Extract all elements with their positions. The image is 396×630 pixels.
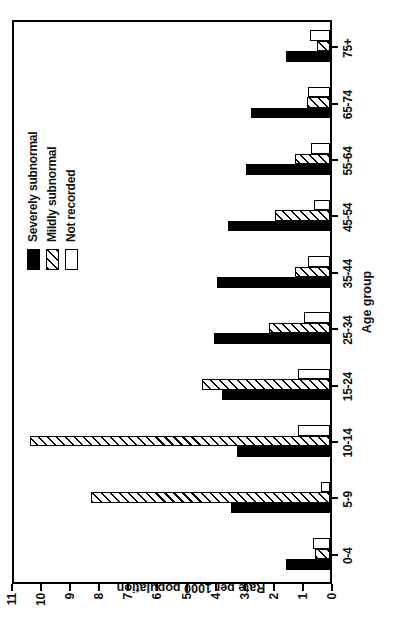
x-axis-tick-label: 25-34 — [341, 316, 355, 345]
legend-item: Not recorded — [64, 132, 78, 270]
x-axis-tick-label: 75+ — [341, 38, 355, 57]
bar-75plus-mildly-subnormal — [317, 41, 330, 52]
legend-item-label: Mildly subnormal — [45, 147, 59, 242]
x-axis-tick-label: 55-64 — [341, 146, 355, 175]
value-axis: Rate per 1000 population01234567891011 — [12, 584, 332, 630]
rotated-figure-wrapper: Rate per 1000 population01234567891011 A… — [0, 0, 396, 630]
solid-black-swatch — [27, 249, 40, 270]
y-axis-tick-label: 9 — [63, 593, 77, 599]
bar-65-74-not-recorded — [308, 87, 330, 98]
y-axis-tick-label: 10 — [34, 593, 48, 606]
x-axis-tick — [332, 385, 338, 387]
x-axis-tick — [332, 103, 338, 105]
bar-15-24-mildly-subnormal — [202, 379, 330, 390]
y-axis-tick-label: 6 — [150, 593, 164, 599]
bar-15-24-not-recorded — [298, 369, 330, 380]
bar-65-74-severely-subnormal — [251, 108, 330, 119]
y-axis-tick — [331, 584, 333, 591]
y-axis-tick-label: 2 — [267, 593, 281, 599]
y-axis-tick-label: 4 — [209, 593, 223, 599]
legend-item-label: Severely subnormal — [26, 132, 40, 242]
bar-0-4-mildly-subnormal — [315, 549, 330, 560]
y-axis-tick — [127, 584, 129, 591]
x-axis-tick — [332, 441, 338, 443]
y-axis-tick-label: 8 — [92, 593, 106, 599]
x-axis-tick — [332, 215, 338, 217]
y-axis-tick — [11, 584, 13, 591]
x-axis-title: Age group — [360, 20, 374, 584]
x-axis-tick — [332, 554, 338, 556]
y-axis-tick-label: 5 — [180, 593, 194, 599]
bar-25-34-mildly-subnormal — [269, 323, 330, 334]
y-axis-tick-label: 3 — [238, 593, 252, 599]
bar-65-74-mildly-subnormal — [307, 97, 330, 108]
bar-15-24-severely-subnormal — [222, 390, 330, 401]
legend-item: Severely subnormal — [26, 132, 40, 270]
bar-75plus-severely-subnormal — [286, 51, 330, 62]
x-axis-tick — [332, 497, 338, 499]
bar-5-9-severely-subnormal — [231, 503, 330, 514]
legend-item: Mildly subnormal — [45, 132, 59, 270]
bar-25-34-not-recorded — [304, 312, 330, 323]
bar-45-54-not-recorded — [314, 200, 330, 211]
y-axis-tick — [186, 584, 188, 591]
plot-area — [12, 20, 332, 584]
bar-75plus-not-recorded — [310, 30, 330, 41]
x-axis-tick-label: 0-4 — [341, 548, 355, 564]
y-axis-tick — [273, 584, 275, 591]
bar-35-44-severely-subnormal — [217, 277, 330, 288]
bar-10-14-not-recorded — [298, 425, 330, 436]
bar-0-4-not-recorded — [313, 538, 330, 549]
white-swatch — [65, 249, 78, 270]
bar-35-44-mildly-subnormal — [295, 267, 330, 278]
hatched-swatch — [46, 249, 59, 270]
y-axis-tick-label: 0 — [325, 593, 339, 599]
bar-25-34-severely-subnormal — [214, 333, 330, 344]
y-axis-tick-label: 1 — [296, 593, 310, 599]
bar-5-9-not-recorded — [321, 482, 330, 493]
category-axis: Age group 0-45-910-1415-2425-3435-4445-5… — [332, 20, 378, 584]
y-axis-tick — [244, 584, 246, 591]
bar-55-64-not-recorded — [311, 143, 330, 154]
x-axis-tick-label: 5-9 — [341, 491, 355, 507]
bar-55-64-mildly-subnormal — [295, 154, 330, 165]
legend-item-label: Not recorded — [64, 170, 78, 242]
bar-45-54-mildly-subnormal — [275, 210, 330, 221]
x-axis-tick-label: 15-24 — [341, 372, 355, 401]
x-axis-tick-label: 45-54 — [341, 203, 355, 232]
y-axis-tick-label: 11 — [5, 593, 19, 605]
y-axis-tick — [69, 584, 71, 591]
bar-chart-figure: Rate per 1000 population01234567891011 A… — [0, 0, 396, 630]
bar-10-14-severely-subnormal — [237, 446, 330, 457]
bar-5-9-mildly-subnormal — [91, 492, 330, 503]
bar-10-14-mildly-subnormal — [30, 436, 330, 447]
x-axis-tick-label: 10-14 — [341, 428, 355, 457]
x-axis-tick — [332, 328, 338, 330]
bar-45-54-severely-subnormal — [228, 221, 330, 232]
x-axis-tick-label: 65-74 — [341, 90, 355, 119]
y-axis-tick-label: 7 — [121, 593, 135, 599]
y-axis-tick — [302, 584, 304, 591]
bar-0-4-severely-subnormal — [286, 559, 330, 570]
x-axis-tick — [332, 46, 338, 48]
bar-35-44-not-recorded — [308, 256, 330, 267]
y-axis-tick — [98, 584, 100, 591]
chart-legend: Severely subnormalMildly subnormalNot re… — [26, 132, 78, 270]
y-axis-tick — [40, 584, 42, 591]
y-axis-tick — [215, 584, 217, 591]
x-axis-tick-label: 35-44 — [341, 259, 355, 288]
bar-55-64-severely-subnormal — [246, 164, 330, 175]
x-axis-tick — [332, 159, 338, 161]
y-axis-tick — [156, 584, 158, 591]
x-axis-tick — [332, 272, 338, 274]
